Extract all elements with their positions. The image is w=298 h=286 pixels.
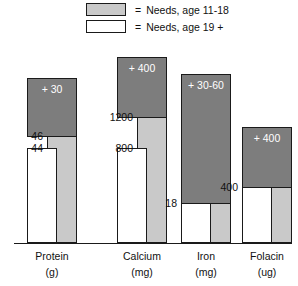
label-iron-increment: + 30-60 [181,79,231,91]
x-label-protein: Protein [17,250,87,262]
value-calcium-teen: 1200 [78,111,133,123]
x-axis-line [14,243,292,244]
plot-area: + 30 46 44 + 400 1200 800 + 30-60 18 [0,0,298,286]
x-unit-folacin: (ug) [232,266,298,278]
value-folacin: 400 [200,181,238,193]
value-calcium-adult: 800 [78,142,133,154]
x-label-calcium: Calcium [107,250,177,262]
x-unit-iron: (mg) [171,266,241,278]
bar-protein-adult [27,148,57,243]
bar-iron-adult [181,203,211,243]
label-protein-increment: + 30 [27,83,77,95]
nutrient-needs-bar-chart: = Needs, age 11-18 = Needs, age 19 + + 3… [0,0,298,286]
value-protein-adult: 44 [0,142,43,154]
bar-folacin-adult [242,187,272,243]
bar-calcium-adult [117,148,147,243]
x-unit-protein: (g) [17,266,87,278]
label-folacin-increment: + 400 [242,132,292,144]
value-iron: 18 [142,197,177,209]
x-unit-calcium: (mg) [107,266,177,278]
value-protein-teen: 46 [0,130,43,142]
x-label-folacin: Folacin [232,250,298,262]
label-calcium-increment: + 400 [117,62,167,74]
x-label-iron: Iron [171,250,241,262]
